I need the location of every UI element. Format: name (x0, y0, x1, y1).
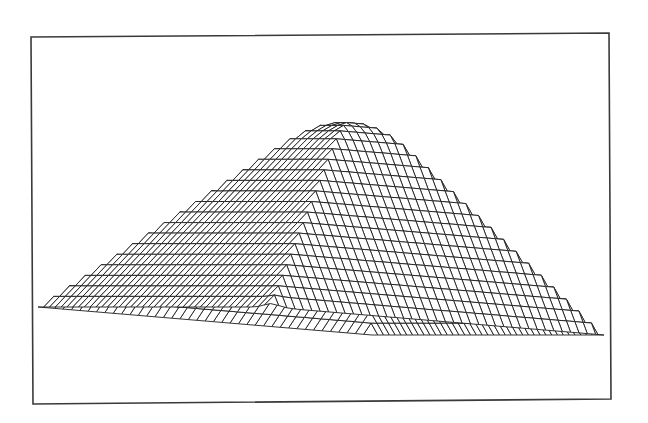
surface-plot (0, 0, 648, 423)
